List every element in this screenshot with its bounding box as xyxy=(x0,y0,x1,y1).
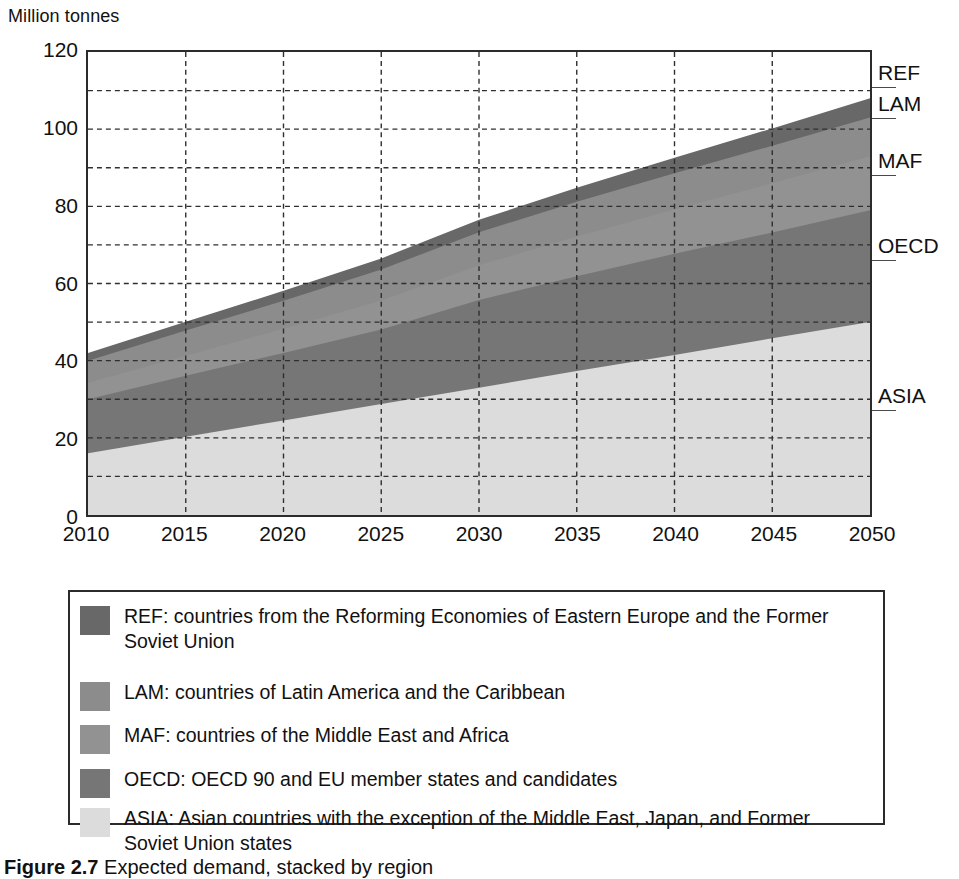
legend-swatch-asia xyxy=(80,808,110,837)
legend-swatch-ref xyxy=(80,606,110,635)
callout-leader-line-oecd xyxy=(872,260,896,261)
legend-item-ref: REF: countries from the Reforming Econom… xyxy=(80,604,869,654)
y-tick-40: 40 xyxy=(4,349,78,373)
x-tick-2015: 2015 xyxy=(161,522,208,546)
y-tick-80: 80 xyxy=(4,194,78,218)
x-tick-2050: 2050 xyxy=(849,522,896,546)
x-tick-2035: 2035 xyxy=(554,522,601,546)
x-tick-2010: 2010 xyxy=(63,522,110,546)
legend-swatch-maf xyxy=(80,725,110,754)
x-tick-2020: 2020 xyxy=(259,522,306,546)
legend-label-maf: MAF: countries of the Middle East and Af… xyxy=(124,723,509,748)
figure-caption-number: Figure 2.7 xyxy=(4,856,98,878)
legend-item-maf: MAF: countries of the Middle East and Af… xyxy=(80,723,509,754)
legend-label-ref: REF: countries from the Reforming Econom… xyxy=(124,604,869,654)
legend-box: REF: countries from the Reforming Econom… xyxy=(68,590,885,825)
callout-label-maf: MAF xyxy=(878,149,922,173)
figure-caption: Figure 2.7 Expected demand, stacked by r… xyxy=(4,856,954,879)
y-axis-tick-labels: 020406080100120 xyxy=(0,50,78,517)
callout-leader-line-maf xyxy=(872,175,896,176)
legend-item-lam: LAM: countries of Latin America and the … xyxy=(80,680,565,711)
callout-label-asia: ASIA xyxy=(878,384,926,408)
x-tick-2045: 2045 xyxy=(750,522,797,546)
callout-leader-line-asia xyxy=(872,410,896,411)
legend-item-oecd: OECD: OECD 90 and EU member states and c… xyxy=(80,767,617,798)
x-axis-tick-labels: 201020152020202520302035204020452050 xyxy=(86,522,872,556)
x-tick-2030: 2030 xyxy=(456,522,503,546)
figure-caption-text: Expected demand, stacked by region xyxy=(104,856,433,878)
callout-label-lam: LAM xyxy=(878,92,921,116)
y-tick-100: 100 xyxy=(4,116,78,140)
callout-label-ref: REF xyxy=(878,61,920,85)
plot-area xyxy=(86,50,872,517)
stacked-area-plot xyxy=(88,52,870,515)
legend-swatch-oecd xyxy=(80,769,110,798)
y-tick-60: 60 xyxy=(4,272,78,296)
callout-leader-line-ref xyxy=(872,87,896,88)
legend-swatch-lam xyxy=(80,682,110,711)
y-axis-unit-label: Million tonnes xyxy=(8,6,119,27)
legend-label-asia: ASIA: Asian countries with the exception… xyxy=(124,806,869,856)
legend-label-lam: LAM: countries of Latin America and the … xyxy=(124,680,565,705)
callout-label-oecd: OECD xyxy=(878,234,939,258)
callout-leader-line-lam xyxy=(872,118,896,119)
x-tick-2025: 2025 xyxy=(357,522,404,546)
x-tick-2040: 2040 xyxy=(652,522,699,546)
series-callouts: REFLAMMAFOECDASIA xyxy=(872,50,959,517)
y-tick-120: 120 xyxy=(4,38,78,62)
chart-area: 020406080100120 201020152020202520302035… xyxy=(0,30,959,560)
y-tick-20: 20 xyxy=(4,427,78,451)
legend-item-asia: ASIA: Asian countries with the exception… xyxy=(80,806,869,856)
legend-label-oecd: OECD: OECD 90 and EU member states and c… xyxy=(124,767,617,792)
